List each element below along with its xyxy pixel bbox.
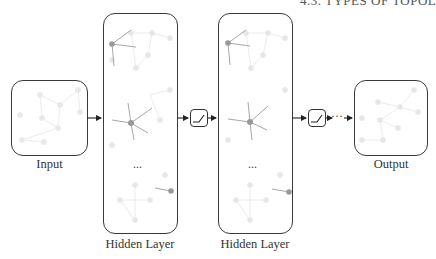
- hidden-layer-2-graph: [225, 30, 292, 223]
- input-graph-icon: [18, 88, 83, 145]
- diagram-graphics: [0, 0, 436, 259]
- output-graph-icon: [360, 88, 421, 143]
- hidden-layer-1-graph: [109, 30, 174, 223]
